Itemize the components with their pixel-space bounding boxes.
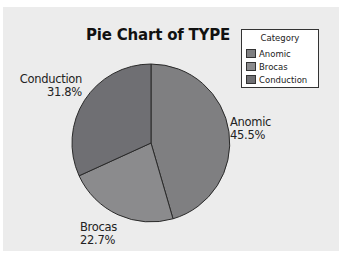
label-brocas: Brocas 22.7% [80,221,117,247]
legend-label-brocas: Brocas [259,62,288,72]
legend-label-anomic: Anomic [259,49,291,59]
legend-swatch-brocas [246,62,256,71]
label-anomic-pct: 45.5% [230,129,271,142]
legend-label-conduction: Conduction [259,75,307,85]
legend-item-brocas: Brocas [246,61,288,72]
label-brocas-pct: 22.7% [80,234,117,247]
legend: Category Anomic Brocas Conduction [241,29,319,88]
legend-item-conduction: Conduction [246,74,307,85]
legend-item-anomic: Anomic [246,48,291,59]
label-anomic: Anomic 45.5% [230,116,271,142]
legend-swatch-conduction [246,75,256,84]
label-conduction: Conduction 31.8% [14,73,82,99]
label-conduction-pct: 31.8% [14,86,82,99]
legend-title: Category [242,33,318,43]
legend-swatch-anomic [246,49,256,58]
